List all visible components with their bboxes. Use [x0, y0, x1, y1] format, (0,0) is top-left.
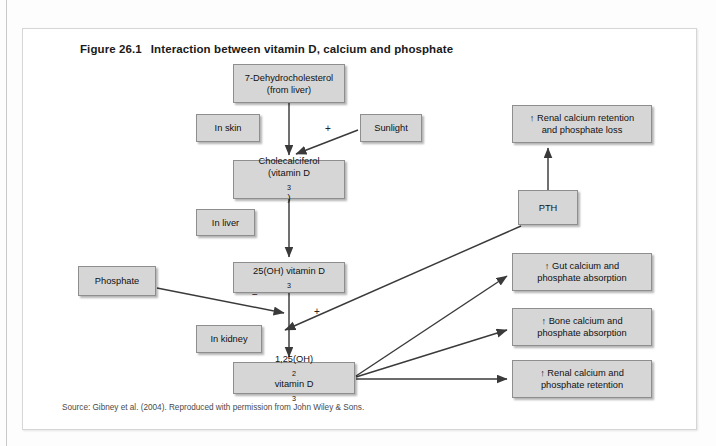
node-7-dehydrocholesterol[interactable]: 7-Dehydrocholesterol (from liver) [233, 64, 345, 103]
node-125oh-mid: vitamin D [275, 378, 314, 390]
node-in-skin[interactable]: In skin [196, 114, 260, 142]
node-125oh-sub1: 2 [292, 369, 296, 378]
node-bone-absorption-line2: phosphate absorption [537, 327, 626, 339]
node-in-kidney-label: In kidney [210, 333, 247, 345]
node-7-dehydrocholesterol-line2: (from liver) [245, 84, 333, 96]
node-phosphate-label: Phosphate [95, 275, 139, 287]
figure-title-text: Interaction between vitamin D, calcium a… [151, 43, 453, 55]
node-cholecalciferol[interactable]: Cholecalciferol (vitamin D3) [233, 160, 345, 199]
node-renal-retention-line1: ↑ Renal calcium and [540, 367, 624, 379]
node-phosphate[interactable]: Phosphate [78, 266, 156, 296]
node-renal-retention-loss-line2: and phosphate loss [530, 124, 634, 136]
node-7-dehydrocholesterol-line1: 7-Dehydrocholesterol [245, 72, 333, 84]
sign-sunlight-plus: + [325, 123, 331, 134]
node-renal-calcium-phosphate-retention[interactable]: ↑ Renal calcium and phosphate retention [512, 360, 652, 398]
node-renal-calcium-retention-phosphate-loss[interactable]: ↑ Renal calcium retention and phosphate … [512, 105, 652, 143]
node-pth[interactable]: PTH [518, 190, 578, 225]
node-cholecalciferol-line2: (vitamin D3) [259, 167, 320, 204]
node-renal-retention-loss-line1: ↑ Renal calcium retention [530, 112, 634, 124]
node-125oh-pre: 1,25(OH) [275, 353, 314, 365]
node-bone-absorption-line1: ↑ Bone calcium and [537, 315, 626, 327]
node-gut-calcium-phosphate-absorption[interactable]: ↑ Gut calcium and phosphate absorption [512, 253, 652, 291]
node-pth-label: PTH [539, 202, 558, 214]
node-renal-retention-line2: phosphate retention [540, 379, 624, 391]
figure-page: Figure 26.1Interaction between vitamin D… [0, 0, 716, 446]
node-gut-absorption-line1: ↑ Gut calcium and [537, 260, 626, 272]
node-125oh2-vitamin-d3[interactable]: 1,25(OH)2 vitamin D3 [233, 362, 355, 394]
node-cholecalciferol-line2-pre: (vitamin D [259, 167, 320, 179]
node-cholecalciferol-line2-sub: 3 [287, 183, 291, 192]
node-in-liver-label: In liver [212, 217, 239, 229]
node-in-liver[interactable]: In liver [196, 209, 255, 236]
node-25oh-sub: 3 [287, 281, 291, 290]
node-gut-absorption-line2: phosphate absorption [537, 272, 626, 284]
node-cholecalciferol-line1: Cholecalciferol [259, 155, 320, 167]
node-sunlight-label: Sunlight [374, 122, 408, 134]
page-gutter-line [6, 0, 7, 446]
node-in-skin-label: In skin [215, 122, 242, 134]
node-25oh-vitamin-d3[interactable]: 25(OH) vitamin D3 [233, 262, 345, 293]
figure-source: Source: Gibney et al. (2004). Reproduced… [62, 403, 364, 412]
node-125oh-sub2: 3 [292, 394, 296, 403]
figure-number: Figure 26.1 [80, 43, 142, 55]
node-bone-calcium-phosphate-absorption[interactable]: ↑ Bone calcium and phosphate absorption [512, 308, 652, 346]
figure-title: Figure 26.1Interaction between vitamin D… [80, 43, 453, 55]
node-cholecalciferol-line2-post: ) [259, 192, 320, 204]
node-25oh-pre: 25(OH) vitamin D [253, 265, 325, 277]
node-in-kidney[interactable]: In kidney [196, 325, 262, 353]
node-sunlight[interactable]: Sunlight [360, 114, 422, 142]
sign-pth-plus: + [314, 306, 320, 317]
